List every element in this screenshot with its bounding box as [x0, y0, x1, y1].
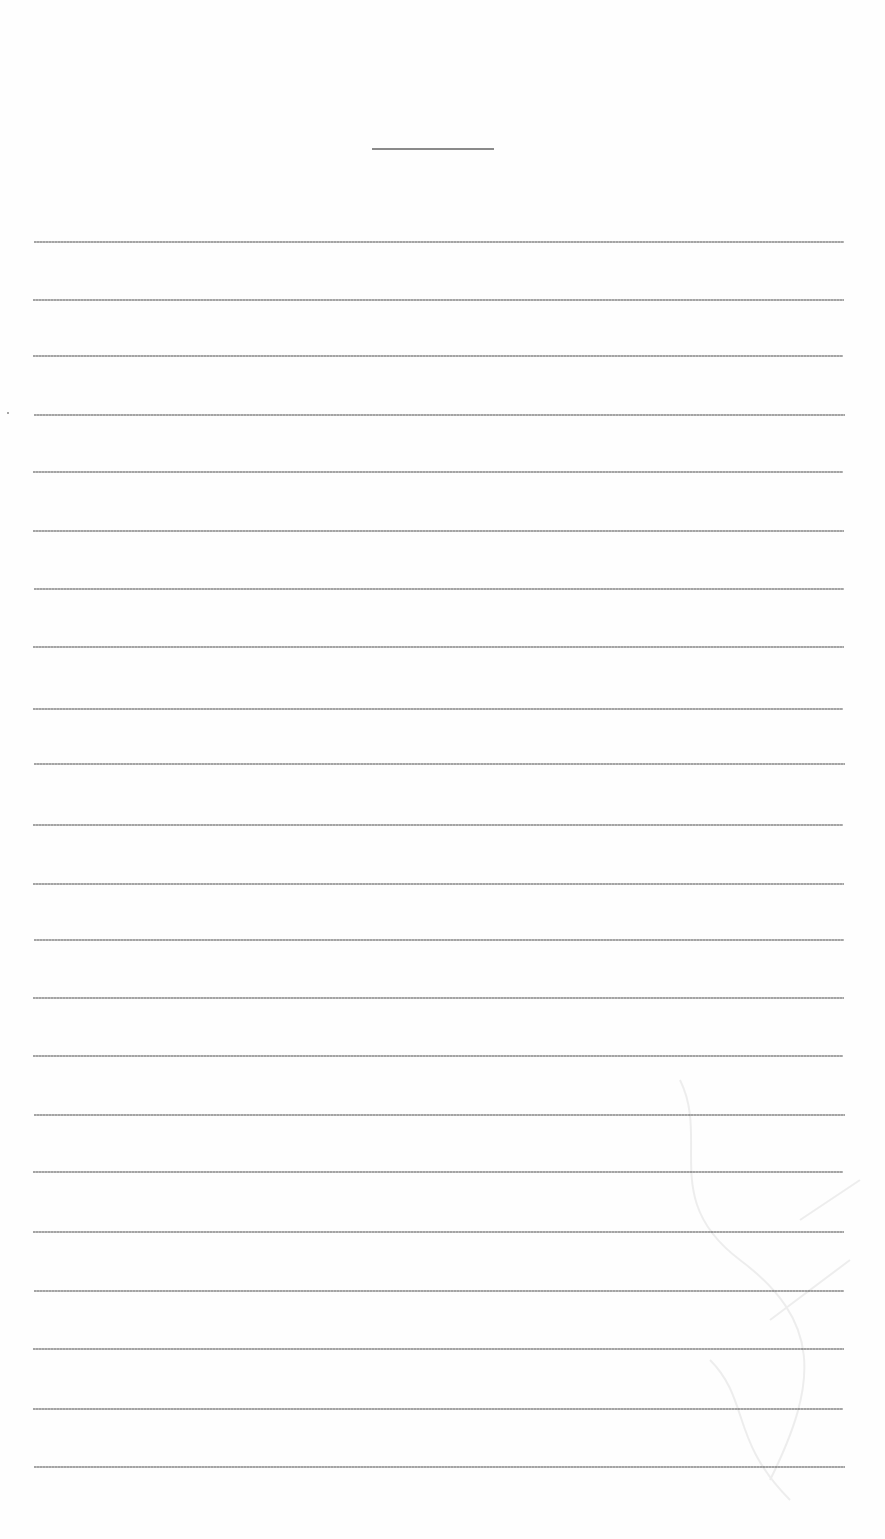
ruled-line: [33, 646, 844, 648]
ruled-line: [33, 883, 844, 885]
title-line: [372, 148, 494, 150]
ruled-line: [34, 588, 844, 590]
ruled-line: [34, 241, 844, 243]
ruled-line: [34, 763, 845, 765]
ruled-line: [34, 1114, 845, 1116]
ruled-line: [33, 1348, 844, 1350]
lined-paper-page: [0, 0, 885, 1539]
bleed-through-marks: [620, 1060, 880, 1530]
ruled-line: [34, 1290, 844, 1292]
ruled-line: [33, 1231, 844, 1233]
ruled-line: [33, 355, 843, 357]
ruled-line: [33, 1055, 843, 1057]
ruled-line: [33, 824, 843, 826]
ruled-line: [34, 414, 845, 416]
ruled-line: [34, 939, 844, 941]
ruled-line: [33, 530, 844, 532]
ruled-line: [34, 1466, 845, 1468]
ruled-line: [33, 299, 844, 301]
ruled-line: [33, 708, 843, 710]
ruled-line: [33, 471, 843, 473]
ruled-line: [33, 997, 844, 999]
scan-speck: [7, 412, 9, 414]
ruled-line: [33, 1171, 843, 1173]
ruled-line: [33, 1408, 843, 1410]
